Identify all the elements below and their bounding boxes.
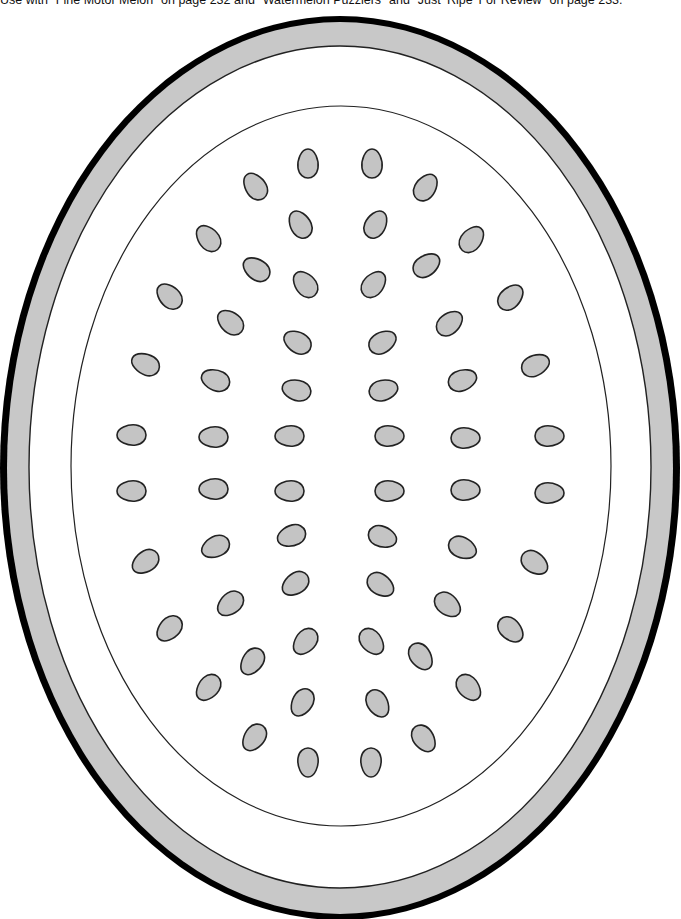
seed <box>451 428 480 448</box>
seed <box>451 480 480 500</box>
seed <box>298 748 318 777</box>
seed <box>275 426 304 446</box>
seed <box>275 481 304 501</box>
watermelon-illustration <box>0 0 681 919</box>
seed <box>362 149 382 178</box>
seed <box>117 481 146 501</box>
seed <box>375 426 404 446</box>
seed <box>117 425 146 445</box>
seed <box>199 479 228 499</box>
seed <box>535 483 564 503</box>
seed <box>361 748 381 777</box>
seed <box>375 481 404 501</box>
seed <box>199 427 228 447</box>
seed <box>298 149 318 178</box>
seed <box>535 426 564 446</box>
flesh-outline <box>71 106 611 826</box>
